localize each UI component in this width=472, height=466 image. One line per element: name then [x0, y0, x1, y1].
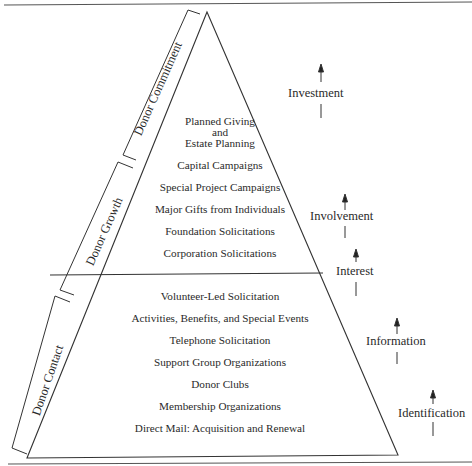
item-major-gifts: Major Gifts from Individuals: [100, 203, 340, 215]
section-divider: [50, 273, 323, 275]
stage-label-information: Information: [366, 334, 426, 349]
item-estate-planning: Estate Planning: [100, 137, 340, 149]
bottom-rule: [8, 462, 472, 464]
top-rule: [4, 2, 472, 5]
stage-label-interest: Interest: [336, 264, 373, 279]
item-activities-benefits-events: Activities, Benefits, and Special Events: [100, 312, 340, 324]
stage-label-involvement: Involvement: [310, 209, 373, 224]
item-volunteer-led-solicitation: Volunteer-Led Solicitation: [100, 290, 340, 302]
item-corporation-solicitations: Corporation Solicitations: [100, 247, 340, 259]
item-foundation-solicitations: Foundation Solicitations: [100, 225, 340, 237]
item-telephone-solicitation: Telephone Solicitation: [100, 334, 340, 346]
item-capital-campaigns: Capital Campaigns: [100, 159, 340, 171]
item-membership-organizations: Membership Organizations: [100, 400, 340, 412]
stage-label-investment: Investment: [288, 86, 344, 101]
stage-label-identification: Identification: [398, 406, 465, 421]
item-special-project-campaigns: Special Project Campaigns: [100, 181, 340, 193]
item-direct-mail: Direct Mail: Acquisition and Renewal: [100, 422, 340, 434]
item-donor-clubs: Donor Clubs: [100, 378, 340, 390]
item-support-group-organizations: Support Group Organizations: [100, 356, 340, 368]
